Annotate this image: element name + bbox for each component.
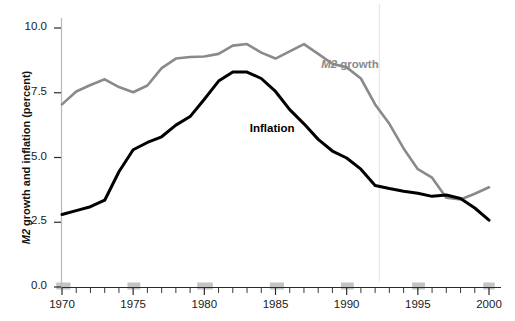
y-tick-label: 2.5 — [13, 214, 47, 226]
series-label-m2-growth: M2 growth — [321, 58, 379, 70]
chart-container: M2 growth and inflation (percent) 0.02.5… — [0, 0, 515, 321]
x-tick-label: 1980 — [184, 298, 224, 310]
series-label-inflation: Inflation — [250, 122, 295, 134]
y-tick-label: 5.0 — [13, 150, 47, 162]
y-tick-label: 7.5 — [13, 85, 47, 97]
x-tick-label: 1990 — [327, 298, 367, 310]
x-tick-label: 1975 — [113, 298, 153, 310]
series-label-m2-italic: M2 — [321, 58, 337, 70]
axes-group — [62, 18, 502, 288]
recession-band — [127, 283, 140, 290]
series-line-inflation — [62, 72, 489, 220]
y-tick-label: 0.0 — [13, 279, 47, 291]
y-axis-title-italic: M2 — [20, 229, 32, 244]
series-label-m2-rest: growth — [337, 58, 379, 70]
x-tick-label: 2000 — [469, 298, 509, 310]
x-tick-label: 1970 — [42, 298, 82, 310]
recession-band — [56, 283, 70, 290]
tick-marks-group — [54, 28, 489, 295]
plot-area — [0, 0, 515, 321]
recession-band — [341, 283, 354, 290]
y-tick-label: 10.0 — [13, 20, 47, 32]
x-tick-label: 1995 — [398, 298, 438, 310]
recession-band — [197, 283, 213, 290]
recession-band — [412, 283, 425, 290]
recession-band — [270, 283, 284, 290]
x-tick-label: 1985 — [256, 298, 296, 310]
